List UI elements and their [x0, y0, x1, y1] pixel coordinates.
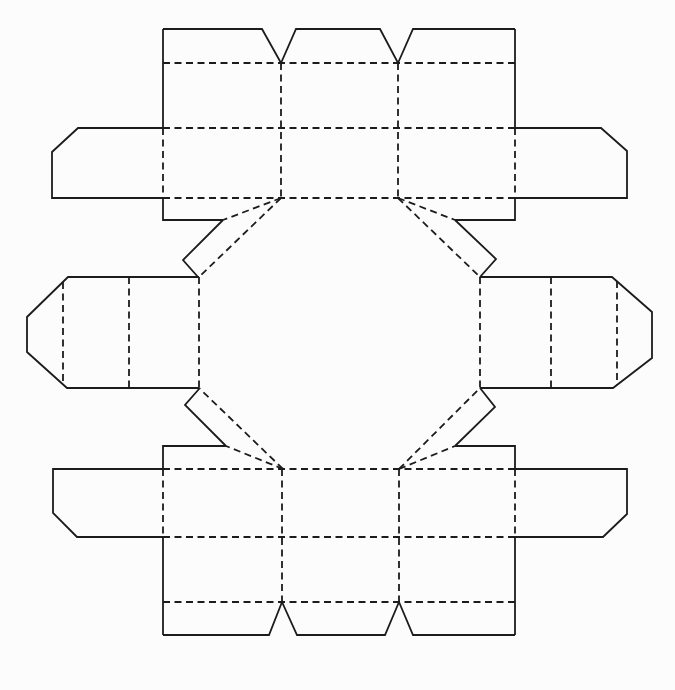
fold-line [398, 198, 455, 220]
diagram-canvas [0, 0, 675, 690]
fold-line [223, 198, 281, 220]
die-cut-template-drawing [0, 0, 675, 690]
cut-line [27, 277, 199, 388]
cut-line [455, 446, 515, 469]
cut-line [185, 389, 226, 446]
cut-line [480, 277, 652, 388]
cut-line [455, 220, 496, 277]
cut-line [52, 128, 163, 198]
fold-line [199, 388, 283, 469]
cut-line [163, 29, 515, 63]
cut-line [163, 446, 226, 469]
fold-line [226, 446, 283, 469]
fold-line [399, 446, 455, 469]
cut-line [515, 128, 627, 198]
cut-line [53, 469, 163, 537]
cut-line [455, 388, 495, 446]
fold-line [398, 198, 480, 277]
fold-line [399, 388, 480, 469]
cut-line [515, 469, 627, 537]
fold-line [199, 198, 281, 277]
cut-line [163, 602, 515, 635]
cut-line [163, 198, 223, 220]
cut-line [455, 198, 515, 220]
cut-line [183, 220, 223, 277]
